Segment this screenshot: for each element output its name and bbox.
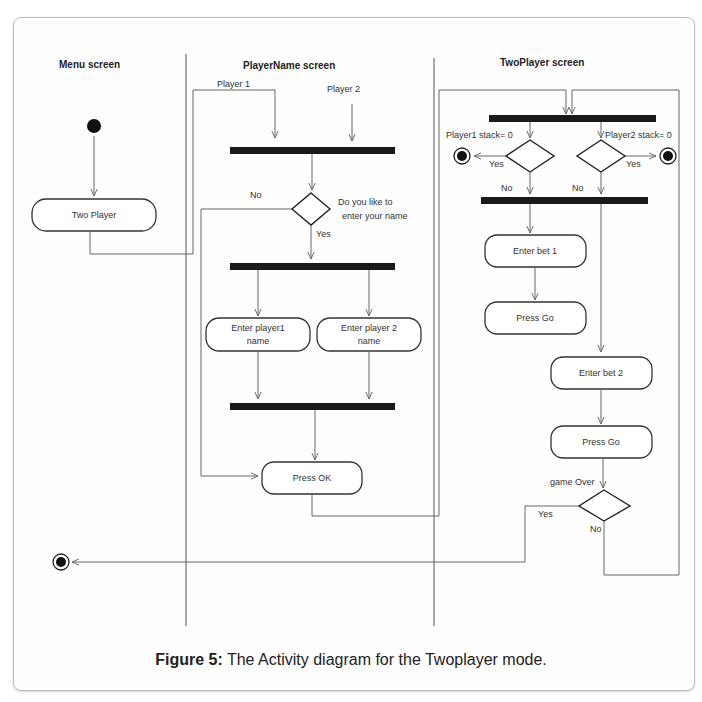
decision-p2-stack <box>577 140 625 172</box>
node-press-go1-label: Press Go <box>516 313 554 323</box>
decision-game-over <box>579 490 630 521</box>
node-enter-player2-line2: name <box>358 336 381 346</box>
lane-title-playername: PlayerName screen <box>243 60 335 71</box>
decision-question-line2: enter your name <box>342 211 408 221</box>
figure-caption: Figure 5: The Activity diagram for the T… <box>0 651 702 669</box>
lane-title-twoplayer: TwoPlayer screen <box>500 57 584 68</box>
label-p1-stack: Player1 stack= 0 <box>446 130 513 140</box>
label-no-p1: No <box>501 183 513 193</box>
node-two-player-label: Two Player <box>72 210 117 220</box>
fork-bar-tp <box>489 115 656 122</box>
join-bar <box>230 403 395 410</box>
label-player1: Player 1 <box>217 79 250 89</box>
label-no-p2: No <box>572 183 584 193</box>
decision-enter-name <box>292 193 330 225</box>
label-p2-stack: Player2 stack= 0 <box>605 130 672 140</box>
fork-bar-tp-2 <box>481 197 648 204</box>
label-game-over-yes: Yes <box>538 509 553 519</box>
caption-label: Figure 5: <box>155 651 223 668</box>
initial-node <box>87 119 101 133</box>
lane-title-menu: Menu screen <box>59 59 120 70</box>
decision-question-line1: Do you like to <box>338 197 393 207</box>
label-yes: Yes <box>316 229 331 239</box>
decision-p1-stack <box>506 140 554 172</box>
node-press-ok-label: Press OK <box>293 473 332 483</box>
label-no: No <box>250 190 262 200</box>
node-enter-bet2-label: Enter bet 2 <box>579 368 623 378</box>
label-yes-p2: Yes <box>626 159 641 169</box>
label-yes-p1: Yes <box>489 159 504 169</box>
node-enter-player2-line1: Enter player 2 <box>341 323 397 333</box>
node-enter-bet1-label: Enter bet 1 <box>513 246 557 256</box>
fork-bar-2 <box>230 263 395 270</box>
label-game-over-no: No <box>590 524 602 534</box>
node-enter-player1-line2: name <box>247 336 270 346</box>
label-player2: Player 2 <box>327 84 360 94</box>
activity-diagram: Menu screen PlayerName screen TwoPlayer … <box>0 0 702 702</box>
label-game-over: game Over <box>550 477 595 487</box>
node-press-go2-label: Press Go <box>582 437 620 447</box>
caption-text: The Activity diagram for the Twoplayer m… <box>223 651 547 668</box>
fork-bar-1 <box>230 147 395 154</box>
node-enter-player1-line1: Enter player1 <box>231 323 285 333</box>
